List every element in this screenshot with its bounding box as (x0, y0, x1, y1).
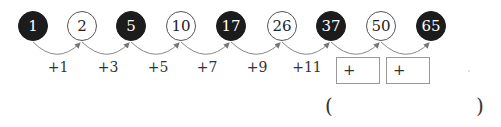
blank-step-box-1[interactable]: + (336, 57, 380, 84)
step-label-5: +9 (247, 59, 268, 75)
blank-step-box-2[interactable]: + (386, 57, 430, 84)
sequence-number-8: 50 (366, 11, 396, 41)
step-label-1: +1 (48, 59, 69, 75)
sequence-number-3: 5 (116, 11, 146, 41)
sequence-number-9: 65 (416, 11, 446, 41)
sequence-number-4: 10 (166, 11, 196, 41)
sequence-number-2: 2 (67, 11, 97, 41)
sequence-number-6: 26 (267, 11, 297, 41)
sequence-number-1: 1 (18, 11, 48, 41)
answer-open-paren: ( (325, 94, 333, 118)
step-label-2: +3 (98, 59, 119, 75)
step-label-3: +5 (148, 59, 169, 75)
step-label-6: +11 (292, 59, 322, 75)
sequence-number-5: 17 (216, 11, 246, 41)
speck (468, 70, 470, 72)
sequence-number-7: 37 (316, 11, 346, 41)
answer-close-paren: ) (476, 94, 484, 118)
step-label-4: +7 (197, 59, 218, 75)
